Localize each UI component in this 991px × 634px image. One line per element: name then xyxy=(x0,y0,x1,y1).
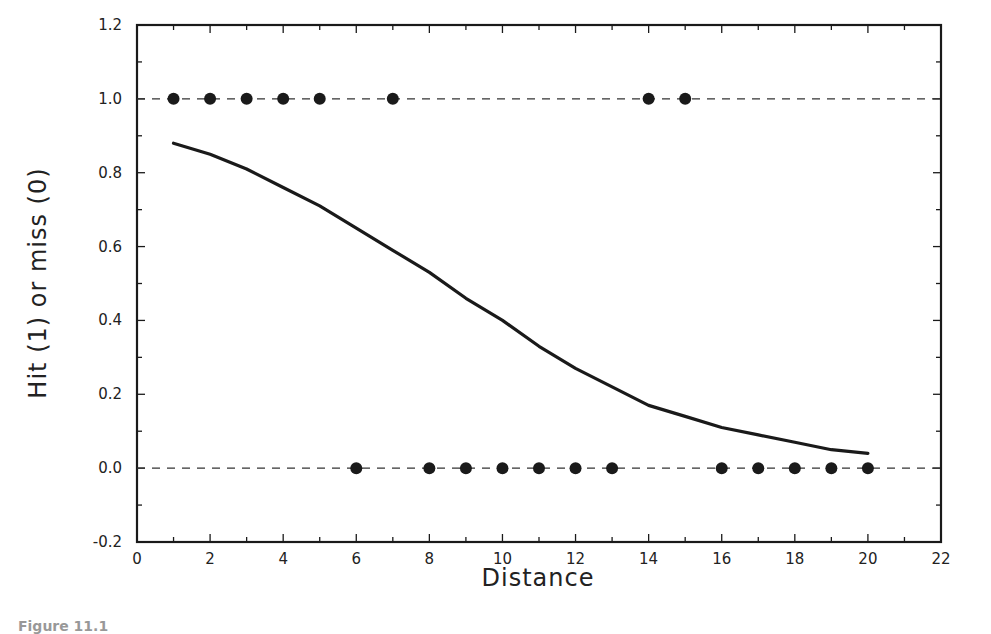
data-point-marker xyxy=(460,462,472,474)
y-tick-label: 0.8 xyxy=(98,164,122,182)
x-tick-label: 14 xyxy=(639,550,658,568)
data-point-marker xyxy=(862,462,874,474)
data-point-marker xyxy=(204,93,216,105)
reference-lines xyxy=(137,99,941,468)
data-point-marker xyxy=(277,93,289,105)
data-point-marker xyxy=(570,462,582,474)
x-tick-label: 6 xyxy=(351,550,361,568)
x-tick-label: 4 xyxy=(278,550,288,568)
y-tick-label: 0.6 xyxy=(98,238,122,256)
data-point-marker xyxy=(606,462,618,474)
data-point-marker xyxy=(752,462,764,474)
x-tick-label: 22 xyxy=(931,550,950,568)
y-tick-label: 0.4 xyxy=(98,311,122,329)
data-point-marker xyxy=(496,462,508,474)
data-point-marker xyxy=(423,462,435,474)
data-point-marker xyxy=(789,462,801,474)
data-point-marker xyxy=(643,93,655,105)
data-point-marker xyxy=(825,462,837,474)
x-tick-label: 0 xyxy=(132,550,142,568)
x-tick-label: 16 xyxy=(712,550,731,568)
logistic-curve-line xyxy=(174,143,868,453)
data-point-marker xyxy=(716,462,728,474)
data-point-marker xyxy=(387,93,399,105)
x-tick-label: 2 xyxy=(205,550,215,568)
x-tick-label: 20 xyxy=(858,550,877,568)
data-point-marker xyxy=(679,93,691,105)
data-point-marker xyxy=(241,93,253,105)
y-axis-title: Hit (1) or miss (0) xyxy=(24,167,52,398)
data-point-marker xyxy=(168,93,180,105)
axis-ticks: 0246810121416182022-0.20.00.20.40.60.81.… xyxy=(93,16,951,568)
data-point-marker xyxy=(314,93,326,105)
y-tick-label: -0.2 xyxy=(93,533,122,551)
y-tick-label: 0.0 xyxy=(98,459,122,477)
x-tick-label: 18 xyxy=(785,550,804,568)
y-tick-label: 1.0 xyxy=(98,90,122,108)
data-point-marker xyxy=(533,462,545,474)
x-tick-label: 8 xyxy=(425,550,435,568)
data-points xyxy=(168,93,874,474)
data-point-marker xyxy=(350,462,362,474)
fitted-curve xyxy=(174,143,868,453)
y-tick-label: 1.2 xyxy=(98,16,122,34)
x-axis-title: Distance xyxy=(482,564,595,592)
figure-caption: Figure 11.1 xyxy=(18,618,108,634)
y-tick-label: 0.2 xyxy=(98,385,122,403)
